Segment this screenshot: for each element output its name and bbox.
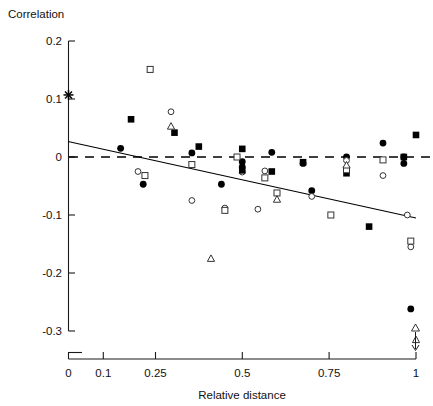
y-tick-label-3: -0.1 bbox=[42, 209, 62, 221]
data-point-filled-square bbox=[268, 168, 275, 175]
data-point-open-triangle bbox=[207, 255, 214, 262]
data-point-open-square bbox=[262, 175, 268, 181]
y-tick-label-4: -0.2 bbox=[42, 267, 62, 279]
chart-canvas: Correlation 0.2 0.1 0 -0.1 -0.2 -0.3 bbox=[0, 0, 433, 406]
data-point-filled-square bbox=[413, 132, 420, 139]
data-point-open-circle bbox=[168, 109, 174, 115]
x-tick-label-3: 0.5 bbox=[234, 367, 250, 379]
x-axis-ticks: 0 0.1 0.25 0.5 0.75 1 bbox=[65, 352, 419, 379]
data-point-open-square bbox=[222, 207, 228, 213]
y-axis-ticks: 0.2 0.1 0 -0.1 -0.2 -0.3 bbox=[42, 35, 75, 337]
data-point-open-square bbox=[328, 212, 334, 218]
data-point-filled-circle bbox=[407, 306, 414, 313]
data-point-filled-circle bbox=[400, 160, 407, 167]
data-point-filled-circle bbox=[218, 181, 225, 188]
x-tick-label-5: 1 bbox=[413, 367, 419, 379]
data-point-filled-circle bbox=[268, 149, 275, 156]
y-tick-label-5: -0.3 bbox=[42, 325, 62, 337]
x-tick-label-0: 0 bbox=[65, 367, 71, 379]
y-tick-label-1: 0.1 bbox=[46, 93, 62, 105]
y-tick-label-0: 0.2 bbox=[46, 35, 62, 47]
data-point-open-circle bbox=[404, 212, 410, 218]
data-point-filled-square bbox=[128, 116, 135, 123]
data-point-filled-square bbox=[196, 143, 203, 150]
data-point-open-square bbox=[234, 154, 240, 160]
data-point-filled-circle bbox=[308, 187, 315, 194]
y-axis-title: Correlation bbox=[8, 8, 64, 20]
data-point-filled-square bbox=[300, 159, 307, 166]
data-point-filled-square bbox=[239, 167, 246, 174]
data-point-filled-square bbox=[171, 129, 178, 136]
data-point-open-circle bbox=[135, 169, 141, 175]
data-point-open-circle bbox=[262, 168, 268, 174]
x-tick-label-1: 0.1 bbox=[95, 367, 111, 379]
data-point-open-triangle bbox=[273, 196, 280, 203]
x-axis-title: Relative distance bbox=[198, 389, 286, 401]
correlation-scatter-figure: Correlation 0.2 0.1 0 -0.1 -0.2 -0.3 bbox=[0, 0, 433, 406]
data-point-open-square bbox=[147, 66, 153, 72]
x-tick-label-4: 0.75 bbox=[318, 367, 340, 379]
data-point-open-circle bbox=[408, 244, 414, 250]
data-point-filled-circle bbox=[380, 140, 387, 147]
data-point-filled-square bbox=[401, 154, 408, 161]
off-scale-arrow-icon bbox=[412, 324, 420, 351]
data-point-filled-square bbox=[366, 223, 373, 230]
data-point-filled-square bbox=[239, 146, 246, 153]
data-point-asterisk bbox=[64, 90, 74, 100]
data-point-open-square bbox=[189, 162, 195, 168]
data-point-open-square bbox=[408, 238, 414, 244]
data-point-open-circle bbox=[309, 194, 315, 200]
data-point-filled-circle bbox=[140, 181, 147, 188]
data-point-filled-circle bbox=[188, 150, 195, 157]
data-point-open-circle bbox=[189, 198, 195, 204]
data-point-open-circle bbox=[380, 173, 386, 179]
data-point-open-square bbox=[142, 173, 148, 179]
regression-line bbox=[68, 142, 416, 219]
data-point-open-square bbox=[380, 157, 386, 163]
data-point-filled-circle bbox=[117, 145, 124, 152]
data-markers-group bbox=[64, 66, 420, 342]
data-point-open-circle bbox=[255, 206, 261, 212]
y-tick-label-2: 0 bbox=[56, 151, 62, 163]
data-point-open-triangle bbox=[167, 123, 174, 130]
x-tick-label-2: 0.25 bbox=[144, 367, 166, 379]
